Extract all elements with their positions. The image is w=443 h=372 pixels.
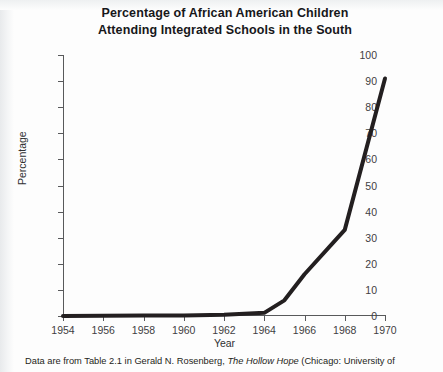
x-tick-mark	[305, 316, 306, 321]
data-series-line	[63, 55, 385, 316]
chart-title-line-1: Percentage of African American Children	[40, 5, 410, 22]
x-tick-label: 1956	[92, 324, 115, 336]
x-tick-mark	[345, 316, 346, 321]
chart-title-line-2: Attending Integrated Schools in the Sout…	[40, 22, 410, 39]
caption-text-after: (Chicago: University of	[299, 356, 395, 366]
x-tick-label: 1964	[253, 324, 276, 336]
caption-text-before: Data are from Table 2.1 in Gerald N. Ros…	[25, 356, 227, 366]
x-tick-label: 1960	[172, 324, 195, 336]
x-tick-label: 1968	[333, 324, 356, 336]
x-axis-title: Year	[63, 337, 386, 349]
figure-caption: Data are from Table 2.1 in Gerald N. Ros…	[25, 355, 435, 367]
y-axis-title: Percentage	[16, 131, 28, 185]
x-tick-mark	[224, 316, 225, 321]
x-tick-mark	[385, 316, 386, 321]
x-tick-label: 1966	[293, 324, 316, 336]
x-tick-label: 1962	[212, 324, 235, 336]
x-tick-label: 1954	[51, 324, 74, 336]
caption-book-title: The Hollow Hope	[227, 356, 298, 366]
chart-title: Percentage of African American Children …	[40, 5, 410, 39]
figure-container: Percentage of African American Children …	[0, 0, 443, 372]
x-tick-label: 1958	[132, 324, 155, 336]
plot-area: 0102030405060708090100 19541956195819601…	[63, 55, 385, 315]
x-tick-mark	[264, 316, 265, 321]
x-tick-label: 1970	[373, 324, 396, 336]
